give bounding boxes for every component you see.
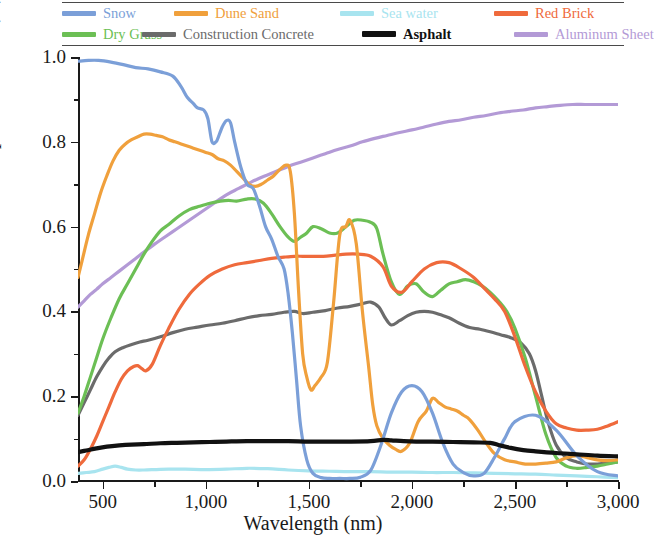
- legend-swatch-concrete: [142, 32, 176, 37]
- legend-label-concrete: Construction Concrete: [183, 27, 314, 42]
- x-tick-minor: [360, 482, 361, 487]
- x-tick-label: 500: [88, 492, 117, 511]
- legend-swatch-aluminum_sheet: [514, 32, 548, 37]
- x-tick: [412, 482, 414, 489]
- x-tick: [515, 482, 517, 489]
- legend-label-dune_sand: Dune Sand: [215, 6, 279, 21]
- y-tick: [71, 311, 78, 313]
- legend-item-dune_sand[interactable]: Dune Sand: [174, 6, 279, 21]
- legend-label-asphalt: Asphalt: [403, 27, 451, 42]
- x-tick: [309, 482, 311, 489]
- legend-row: Dry GrassConstruction ConcreteAsphaltAlu…: [62, 25, 624, 45]
- legend-swatch-asphalt: [362, 31, 396, 37]
- x-tick: [206, 482, 208, 489]
- x-tick: [618, 482, 620, 489]
- y-tick-minor: [74, 99, 79, 100]
- x-tick-label: 3,000: [597, 492, 640, 511]
- legend-swatch-sea_water: [340, 11, 374, 16]
- y-tick-minor: [74, 269, 79, 270]
- legend-swatch-dry_grass: [62, 32, 96, 37]
- y-tick-label: 0.0: [2, 470, 66, 492]
- series-line-sea-water: [78, 466, 618, 477]
- legend-item-asphalt[interactable]: Asphalt: [362, 27, 451, 42]
- y-tick: [71, 396, 78, 398]
- legend-label-red_brick: Red Brick: [535, 6, 594, 21]
- legend-item-concrete[interactable]: Construction Concrete: [142, 27, 314, 42]
- plot-area: [78, 57, 618, 481]
- y-tick-minor: [74, 184, 79, 185]
- y-tick: [71, 481, 78, 483]
- y-tick-label: 0.8: [2, 131, 66, 153]
- series-lines: [78, 57, 618, 481]
- legend-item-snow[interactable]: Snow: [62, 6, 136, 21]
- y-tick-label: 0.6: [2, 216, 66, 238]
- y-tick: [71, 142, 78, 144]
- x-tick-minor: [566, 482, 567, 487]
- x-tick-label: 2,500: [494, 492, 537, 511]
- x-axis-label: Wavelength (nm): [0, 512, 626, 535]
- series-line-snow: [78, 60, 618, 478]
- legend-label-aluminum_sheet: Aluminum Sheet: [555, 27, 654, 42]
- y-tick-label: 1.0: [2, 46, 66, 68]
- legend-item-aluminum_sheet[interactable]: Aluminum Sheet: [514, 27, 654, 42]
- x-tick-minor: [463, 482, 464, 487]
- x-tick: [103, 482, 105, 489]
- legend-item-sea_water[interactable]: Sea water: [340, 6, 438, 21]
- y-tick-minor: [74, 439, 79, 440]
- series-line-red-brick: [78, 254, 618, 466]
- series-line-asphalt: [78, 440, 618, 457]
- legend-row: SnowDune SandSea waterRed Brick: [62, 5, 624, 25]
- x-tick-label: 1,500: [287, 492, 330, 511]
- legend-swatch-red_brick: [494, 11, 528, 16]
- x-tick-label: 2,000: [391, 492, 434, 511]
- y-tick: [71, 227, 78, 229]
- y-tick-label: 0.2: [2, 385, 66, 407]
- x-tick-minor: [257, 482, 258, 487]
- series-line-dry-grass: [78, 199, 618, 469]
- legend-label-snow: Snow: [103, 6, 136, 21]
- chart-legend: SnowDune SandSea waterRed BrickDry Grass…: [62, 2, 624, 46]
- legend-label-sea_water: Sea water: [381, 6, 438, 21]
- legend-swatch-dune_sand: [174, 11, 208, 16]
- legend-swatch-snow: [62, 11, 96, 16]
- legend-item-red_brick[interactable]: Red Brick: [494, 6, 594, 21]
- x-tick-label: 1,000: [184, 492, 227, 511]
- x-tick-minor: [154, 482, 155, 487]
- y-tick-label: 0.4: [2, 300, 66, 322]
- y-tick-minor: [74, 354, 79, 355]
- y-tick: [71, 57, 78, 59]
- y-axis-label: Spectral Albedo (%): [0, 0, 1, 160]
